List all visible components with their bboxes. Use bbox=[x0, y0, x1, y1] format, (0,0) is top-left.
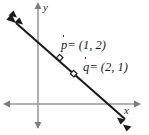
y-axis-top-arrow-icon bbox=[35, 2, 42, 9]
point-label-q-text: = (2, 1) bbox=[89, 60, 128, 74]
y-axis-bottom-arrow-icon bbox=[35, 122, 42, 129]
y-axis-label: y bbox=[43, 2, 48, 13]
x-axis-right-arrow-icon bbox=[134, 101, 141, 108]
p-symbol: p bbox=[61, 39, 67, 52]
x-axis-left-arrow-icon bbox=[3, 101, 10, 108]
point-label-q: q= (2, 1) bbox=[83, 61, 128, 74]
q-symbol: q bbox=[83, 61, 89, 74]
lower-right-double-arrow-icon bbox=[117, 118, 132, 132]
point-label-p: p= (1, 2) bbox=[61, 39, 106, 52]
point-label-p-text: = (1, 2) bbox=[67, 38, 106, 52]
geometry-figure: p= (1, 2) q= (2, 1) x y bbox=[0, 0, 149, 135]
x-axis-label: x bbox=[124, 105, 129, 116]
